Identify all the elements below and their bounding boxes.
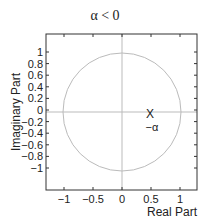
x-tick-label: 0	[119, 193, 125, 205]
x-tick-label: 1	[177, 193, 183, 205]
pole-zero-plot: −1−0.500.51 10.80.60.40.20−0.2−0.4−0.6−0…	[0, 0, 210, 221]
y-tick-label: −0.6	[21, 139, 43, 151]
y-tick-label: −0.8	[21, 150, 43, 162]
y-tick-label: −0.2	[21, 116, 43, 128]
x-axis-label: Real Part	[147, 205, 198, 219]
x-tick-label: 0.5	[143, 193, 158, 205]
y-tick-label: −1	[30, 162, 43, 174]
y-tick-label: 0	[37, 104, 43, 116]
y-tick-label: 0.6	[28, 69, 43, 81]
y-tick-label: 0.4	[28, 81, 43, 93]
x-ticks: −1−0.500.51	[58, 34, 183, 205]
x-tick-label: −0.5	[82, 193, 104, 205]
y-tick-label: −0.4	[21, 127, 43, 139]
y-tick-label: 0.8	[28, 58, 43, 70]
pole-annotation: −α	[146, 121, 159, 133]
x-tick-label: −1	[58, 193, 71, 205]
y-ticks: 10.80.60.40.20−0.2−0.4−0.6−0.8−1	[21, 46, 197, 174]
y-tick-label: 1	[37, 46, 43, 58]
y-tick-label: 0.2	[28, 92, 43, 104]
pole-marker: X	[146, 107, 154, 121]
y-axis-label: Imaginary Part	[9, 72, 23, 151]
